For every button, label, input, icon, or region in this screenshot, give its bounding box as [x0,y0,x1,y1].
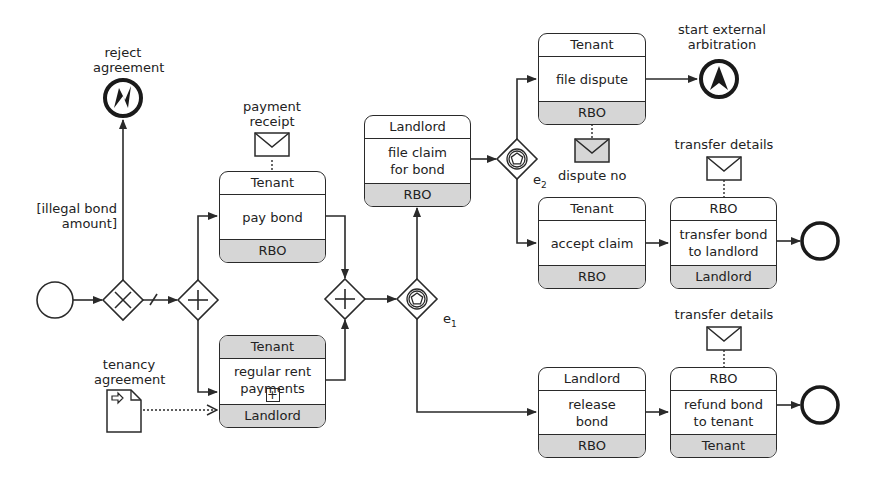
end-event-refund[interactable] [802,387,838,423]
initiator-band: Tenant [539,34,645,57]
task-name: pay bond [220,195,325,239]
label-line: agreement [93,60,153,75]
initiator-band: RBO [671,198,776,221]
label-line: tenancy [94,357,164,372]
flow-rent-join [326,320,345,380]
task-name-line: bond [568,413,615,430]
label-subscript: 2 [541,180,547,190]
receiver-band: Landlord [220,404,325,427]
start-event[interactable] [37,282,73,318]
task-transfer-bond[interactable]: RBO transfer bond to landlord Landlord [670,197,777,289]
task-name-line: release [568,396,615,413]
label-line: agreement [94,372,164,387]
envelope-icon-transfer-details-2 [707,327,741,350]
receiver-band: RBO [220,239,325,262]
error-end-icon[interactable] [105,80,141,116]
task-file-claim[interactable]: Landlord file claim for bond RBO [364,115,471,207]
task-file-dispute[interactable]: Tenant file dispute RBO [538,33,646,125]
receiver-band: RBO [539,434,645,457]
dispute-no-label: dispute no [558,168,627,183]
receiver-band: Landlord [671,265,776,288]
task-name: accept claim [539,221,645,265]
receiver-band: RBO [365,183,470,206]
escalation-end-icon[interactable] [701,61,737,97]
receiver-band: RBO [539,265,645,288]
exclusive-gateway[interactable] [103,280,143,320]
flow-e1-release [417,319,536,412]
receiver-band: Tenant [671,434,776,457]
initiator-band: Landlord [539,368,645,391]
label-text: e [443,311,451,326]
transfer-details-label-1: transfer details [674,137,774,152]
initiator-band: Tenant [220,336,325,359]
task-name: transfer bond to landlord [671,221,776,265]
end-event-transfer[interactable] [802,223,838,259]
task-name-line: file claim [388,144,447,161]
task-release-bond[interactable]: Landlord release bond RBO [538,367,646,458]
flow-e2-dispute [517,79,536,139]
event-based-gateway-e2[interactable] [497,139,537,179]
transfer-details-label-2: transfer details [674,307,774,322]
label-line: payment [237,99,307,114]
reject-agreement-label: reject agreement [93,45,153,75]
initiator-band: RBO [671,368,776,391]
label-line: receipt [237,114,307,129]
task-name: release bond [539,391,645,434]
label-text: e [533,172,541,187]
envelope-icon-transfer-details-1 [707,157,741,180]
flow-split-rent [198,320,217,392]
label-line: [illegal bond [22,201,117,216]
task-name-line: to landlord [679,243,767,260]
payment-receipt-label: payment receipt [237,99,307,129]
label-line: arbitration [672,37,772,52]
initiator-band: Tenant [220,172,325,195]
task-name: file dispute [539,57,645,101]
task-name-line: for bond [388,161,447,178]
subprocess-plus-icon[interactable]: + [266,388,280,402]
label-line: reject [93,45,153,60]
condition-illegal-bond: [illegal bond amount] [22,201,117,231]
task-name-line: refund bond [684,396,763,413]
parallel-gateway-split[interactable] [178,280,218,320]
start-arbitration-label: start external arbitration [672,22,772,52]
task-name-line: to tenant [684,413,763,430]
label-line: amount] [22,216,117,231]
label-subscript: 1 [451,319,457,329]
parallel-gateway-join[interactable] [325,279,365,319]
initiator-band: Landlord [365,116,470,139]
task-name: refund bond to tenant [671,391,776,434]
initiator-band: Tenant [539,198,645,221]
label-line: start external [672,22,772,37]
envelope-icon-dispute-no [575,139,609,162]
task-pay-bond[interactable]: Tenant pay bond RBO [219,171,326,263]
gateway-e2-label: e2 [533,172,547,193]
task-accept-claim[interactable]: Tenant accept claim RBO [538,197,646,289]
task-name-line: regular rent [234,363,311,380]
flow-split-paybond [198,216,217,280]
event-based-gateway-e1[interactable] [397,279,437,319]
gateway-e1-label: e1 [443,311,457,332]
task-name-line: transfer bond [679,226,767,243]
receiver-band: RBO [539,101,645,124]
task-refund-bond[interactable]: RBO refund bond to tenant Tenant [670,367,777,458]
task-name: file claim for bond [365,139,470,183]
task-regular-rent-payments[interactable]: Tenant regular rent payments + Landlord [219,335,326,428]
flow-paybond-join [326,216,345,278]
document-icon-tenancy-agreement[interactable] [107,390,141,432]
tenancy-agreement-label: tenancy agreement [94,357,164,387]
envelope-icon-payment-receipt [255,133,289,156]
task-name: regular rent payments + [220,359,325,404]
